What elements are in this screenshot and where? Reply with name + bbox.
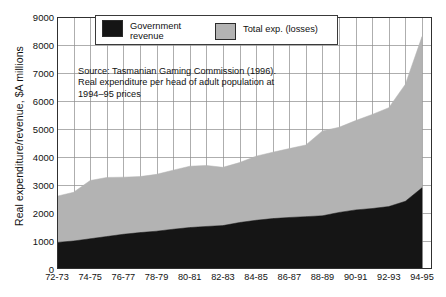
y-tick-label: 7000 (33, 68, 54, 79)
y-tick-label: 6000 (33, 96, 54, 107)
y-tick-label: 8000 (33, 40, 54, 51)
source-annotation: Source: Tasmanian Gaming Commission (199… (78, 66, 276, 100)
x-tick-label: 84-85 (244, 272, 268, 282)
y-tick-label: 3000 (33, 180, 54, 191)
x-tick-label: 72-73 (45, 272, 69, 282)
x-tick-label: 88-89 (311, 272, 335, 282)
x-tick-label: 76-77 (112, 272, 136, 282)
legend-entry-total-exp: Total exp. (losses) (215, 23, 318, 40)
legend-swatch-total-exp (215, 23, 236, 40)
x-tick-label: 94-95 (410, 272, 434, 282)
y-tick-label: 4000 (33, 152, 54, 163)
chart-figure: Real expenditure/revenue, $A millions 01… (0, 0, 446, 297)
x-tick-label: 82-83 (211, 272, 235, 282)
x-axis-tick-labels: 72-7374-7576-7778-7980-8182-8384-8586-87… (57, 272, 432, 288)
x-tick-label: 92-93 (377, 272, 401, 282)
plot-area (57, 17, 432, 269)
x-tick-label: 86-87 (278, 272, 302, 282)
x-tick-label: 80-81 (178, 272, 202, 282)
legend-label-total-exp: Total exp. (losses) (243, 23, 318, 34)
x-tick-label: 90-91 (344, 272, 368, 282)
legend-swatch-government-revenue (102, 20, 123, 37)
legend-entry-government-revenue: Government revenue (102, 20, 181, 41)
y-tick-label: 5000 (33, 124, 54, 135)
legend-label-government-revenue: Government revenue (130, 20, 181, 41)
chart-legend: Government revenue Total exp. (losses) (95, 15, 338, 45)
y-tick-label: 1000 (33, 236, 54, 247)
y-tick-label: 2000 (33, 208, 54, 219)
y-tick-label: 9000 (33, 12, 54, 23)
x-tick-label: 74-75 (78, 272, 102, 282)
plot-svg (57, 17, 432, 269)
x-tick-label: 78-79 (145, 272, 169, 282)
y-axis-tick-labels: 0100020003000400050006000700080009000 (18, 17, 54, 269)
